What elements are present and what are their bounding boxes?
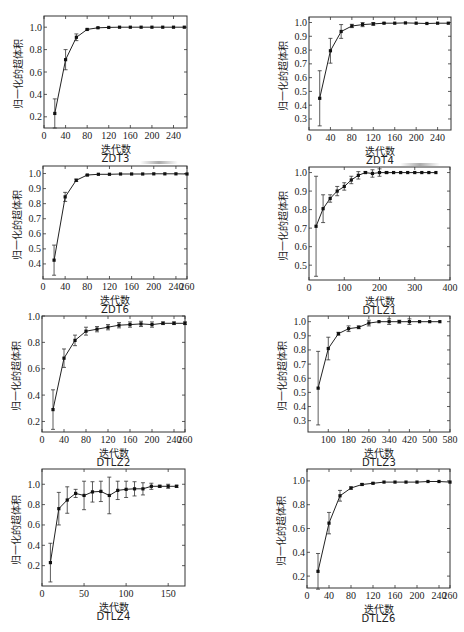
data-marker: [437, 480, 440, 483]
chart-svg: 040801201602002402600.20.40.60.81.0: [0, 0, 464, 632]
data-marker: [382, 480, 385, 483]
data-line: [318, 482, 450, 572]
data-marker: [371, 482, 374, 485]
data-marker: [393, 480, 396, 483]
scan-artifact: [140, 161, 178, 164]
y-tick-label: 0.8: [293, 499, 306, 510]
axes-frame: [307, 469, 450, 588]
x-tick-label: 200: [410, 590, 425, 601]
y-tick-label: 1.0: [293, 475, 306, 486]
data-marker: [448, 480, 451, 483]
data-marker: [316, 570, 319, 573]
data-marker: [349, 486, 352, 489]
x-tick-label: 40: [324, 590, 334, 601]
x-tick-label: 120: [366, 590, 381, 601]
y-tick-label: 0.4: [293, 547, 306, 558]
data-marker: [426, 480, 429, 483]
data-marker: [327, 522, 330, 525]
scan-artifact: [400, 163, 440, 166]
x-tick-label: 0: [305, 590, 310, 601]
data-marker: [360, 483, 363, 486]
x-tick-label: 260: [443, 590, 458, 601]
data-marker: [415, 480, 418, 483]
subplot-title: DTLZ6: [307, 613, 450, 624]
data-marker: [404, 480, 407, 483]
x-tick-label: 160: [388, 590, 403, 601]
y-tick-label: 0.6: [293, 523, 306, 534]
y-tick-label: 0.2: [293, 571, 306, 582]
x-tick-label: 80: [346, 590, 356, 601]
y-axis-label: 归一化的超体积: [273, 492, 285, 566]
data-marker: [338, 494, 341, 497]
